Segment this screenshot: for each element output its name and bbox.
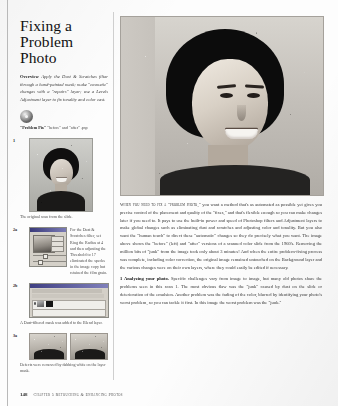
step-1-heading: 1 Analyzing your photo. [120, 276, 169, 281]
figure-2b: 2b A Dust-filtered mask was added to the… [20, 283, 108, 326]
layer-thumbnail [37, 301, 44, 307]
dialog-radius-slider-knob [43, 254, 48, 260]
hero-smile [225, 129, 258, 139]
layers-palette-screenshot [29, 283, 109, 318]
closeup-after-dark-area [75, 349, 105, 359]
dialog-preview-checkbox [51, 246, 64, 252]
figure-3a: 3a Defects were removed by dabbing white… [20, 333, 108, 374]
figure-1-caption: The original scan from the slide. [20, 214, 108, 220]
footer-chapter-line: Chapter 5 Retouching & Enhancing Photos [34, 392, 123, 397]
title-line-1: Fixing a [20, 18, 108, 34]
palette-blend-controls [32, 294, 104, 298]
hero-shoulders [160, 165, 310, 195]
dialog-radius-slider-track [33, 255, 66, 256]
hero-background-wall [121, 17, 155, 195]
figure-1-image-original-scan [29, 138, 93, 212]
figure-2a-row: For the Dust & Scratches filter, set Rin… [29, 227, 108, 276]
hero-photo-before-after [120, 16, 324, 196]
figure-2b-number: 2b [13, 283, 17, 288]
figure-3a-number: 3a [13, 333, 17, 338]
sidebar-column: Fixing a Problem Photo Overview Apply th… [20, 18, 108, 374]
palette-tabs [32, 289, 102, 293]
figure-3a-row [29, 333, 108, 360]
dialog-titlebar [30, 228, 66, 232]
layer-mask-thumbnail [46, 301, 53, 307]
binding-rule [7, 0, 8, 406]
figure-1: 1 The original scan from the slide. [20, 138, 108, 220]
figure-1-number: 1 [13, 138, 15, 143]
article-body: When you need to fix a "problem photo," … [120, 201, 322, 307]
layer-row-background [32, 309, 106, 317]
thumb-shoulders [37, 191, 85, 211]
title-line-2: Problem [20, 34, 108, 50]
folio-page-number: 148 [20, 392, 28, 397]
cd-caption-bold: "Problem Pix" [20, 125, 46, 130]
closeup-before-image [29, 333, 67, 360]
layer-visibility-eye-icon [34, 302, 37, 305]
thumb-smile [56, 178, 67, 182]
figure-2a: 2a For the Dust & Scratches filter, set … [20, 227, 108, 276]
thumb-face [50, 159, 73, 187]
figure-2b-caption: A Dust-filtered mask was added to the Bl… [20, 320, 108, 326]
book-page: Fixing a Problem Photo Overview Apply th… [0, 0, 338, 406]
body-paragraph-1: When you need to fix a "problem photo," … [120, 201, 322, 271]
overview-label: Overview [20, 74, 39, 79]
column-divider-rule [113, 12, 114, 380]
body-paragraph-2: 1 Analyzing your photo. Specific challen… [120, 275, 322, 306]
page-footer: 148 Chapter 5 Retouching & Enhancing Pho… [20, 392, 123, 397]
body-lead-in: When you need to fix a "problem photo," [120, 202, 201, 207]
cd-disc-icon [20, 110, 33, 123]
title-line-3: Photo [20, 50, 108, 66]
hero-eye-left [220, 93, 233, 98]
hero-nose [237, 105, 246, 121]
main-column: When you need to fix a "problem photo," … [120, 16, 322, 311]
cd-file-caption: "Problem Pix" "before" and "after" .psp [20, 125, 108, 131]
dialog-threshold-slider-knob [38, 260, 43, 266]
body-paragraph-1-text: you want a method that's as automated as… [120, 202, 322, 270]
figure-2a-number: 2a [13, 227, 17, 232]
dust-and-scratches-dialog-screenshot [29, 227, 67, 267]
closeup-after-image [70, 333, 108, 360]
overview-paragraph: Overview Apply the Dust & Scratches filt… [20, 73, 108, 103]
palette-titlebar [30, 284, 108, 288]
page-title: Fixing a Problem Photo [20, 18, 108, 65]
closeup-before-dark-area [34, 349, 64, 359]
figure-3a-caption: Defects were removed by dabbing white on… [20, 362, 108, 374]
hero-eye-right [247, 93, 260, 98]
cd-caption-rest: "before" and "after" .psp [47, 125, 87, 130]
figure-2a-caption: For the Dust & Scratches filter, set Rin… [70, 227, 108, 276]
